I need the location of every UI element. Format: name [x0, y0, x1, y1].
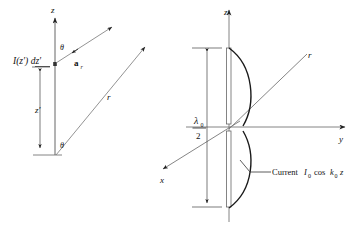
- current-cos: cos: [314, 167, 325, 177]
- half-wavelength-numerator-subscript: 0: [201, 122, 204, 128]
- y-axis-label-right: y: [338, 134, 343, 144]
- z-axis-label-left: z: [50, 5, 55, 15]
- r-ray-line-right: [229, 54, 307, 129]
- dipole-lower-arm: [227, 131, 232, 207]
- half-wavelength-numerator: λ: [193, 115, 199, 126]
- z-axis-label-right: z: [223, 7, 228, 17]
- unit-vector-label-group: a r: [74, 58, 84, 70]
- figure-root: I(z′) dz′ z′ z θ θ a r r: [0, 0, 362, 235]
- current-element-label-group: I(z′) dz′: [12, 56, 50, 67]
- upper-ray-line: [56, 27, 112, 63]
- current-label-word: Current: [272, 167, 299, 177]
- current-symbol-subscript: 0: [308, 173, 311, 179]
- r-axis-label-right: r: [308, 50, 312, 60]
- x-axis-label-right: x: [159, 175, 164, 185]
- current-distribution-label-group: Current I 0 cos k 0 z: [272, 167, 344, 179]
- height-label: z′: [34, 105, 42, 115]
- current-curve-upper: [229, 48, 251, 126]
- half-wavelength-denominator: 2: [196, 131, 201, 141]
- right-diagram-group: λ 0 2 Current I 0 cos k 0 z z y x r: [159, 7, 345, 222]
- current-wavenumber: k: [330, 167, 334, 177]
- unit-vector-label: a: [74, 58, 79, 68]
- unit-vector-subscript: r: [81, 64, 84, 70]
- left-diagram-group: I(z′) dz′ z′ z θ θ a r r: [12, 5, 145, 155]
- antenna-figure-svg: I(z′) dz′ z′ z θ θ a r r: [0, 0, 362, 235]
- range-label-left: r: [107, 92, 111, 102]
- current-wavenumber-subscript: 0: [335, 173, 338, 179]
- half-wavelength-label-group: λ 0 2: [193, 115, 207, 141]
- theta-lower-label: θ: [60, 141, 64, 150]
- theta-upper-label: θ: [60, 43, 64, 52]
- unit-vector-arrow: [72, 49, 78, 53]
- dipole-upper-arm: [227, 48, 232, 124]
- range-ray-line: [56, 47, 145, 155]
- current-label-leader-hook: [240, 160, 250, 172]
- current-element-label: I(z′) dz′: [12, 56, 42, 67]
- current-variable: z: [339, 167, 344, 177]
